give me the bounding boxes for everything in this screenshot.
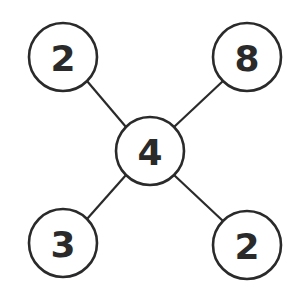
edge-bottom-right bbox=[174, 175, 223, 221]
node-center: 4 bbox=[116, 117, 184, 185]
node-top-right: 8 bbox=[213, 23, 281, 91]
edge-top-right bbox=[174, 81, 223, 127]
number-diagram: 2 8 4 3 2 bbox=[0, 0, 301, 295]
node-value: 2 bbox=[234, 226, 259, 267]
node-value: 4 bbox=[137, 132, 162, 173]
node-value: 3 bbox=[50, 224, 75, 265]
edge-bottom-left bbox=[87, 175, 126, 219]
node-top-left: 2 bbox=[29, 23, 97, 91]
diagram-svg: 2 8 4 3 2 bbox=[0, 0, 301, 295]
node-value: 2 bbox=[50, 38, 75, 79]
node-bottom-right: 2 bbox=[213, 211, 281, 279]
edge-top-left bbox=[87, 81, 126, 127]
node-bottom-left: 3 bbox=[29, 209, 97, 277]
node-value: 8 bbox=[234, 38, 259, 79]
